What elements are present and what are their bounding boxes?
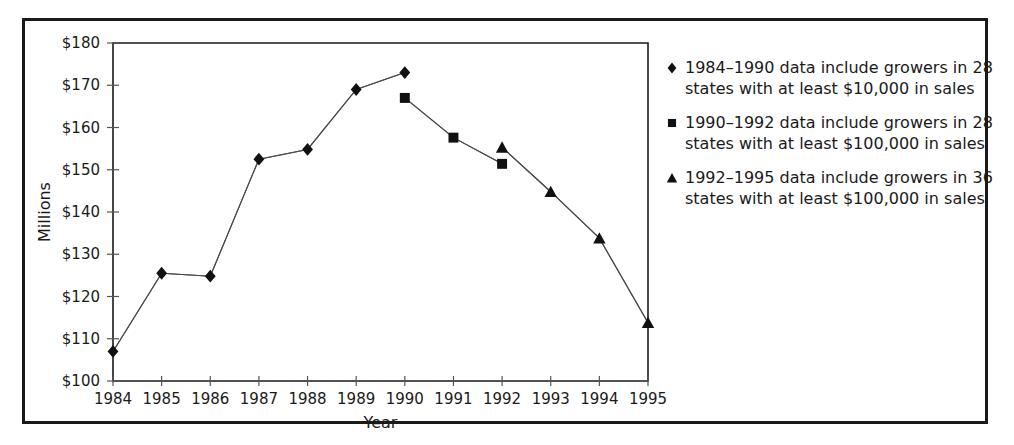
y-tick-label: $170 bbox=[62, 76, 100, 94]
y-tick-label: $120 bbox=[62, 288, 100, 306]
x-axis-title: Year bbox=[363, 413, 398, 432]
x-tick-label: 1986 bbox=[191, 390, 229, 408]
x-tick-label: 1995 bbox=[629, 390, 667, 408]
line-chart: $100$110$120$130$140$150$160$170$1801984… bbox=[0, 0, 1014, 445]
data-point-diamond-1984 bbox=[108, 345, 119, 358]
data-point-square-1992 bbox=[497, 159, 507, 169]
data-point-square-1990 bbox=[400, 93, 410, 103]
y-tick-label: $160 bbox=[62, 119, 100, 137]
legend-marker-2 bbox=[668, 119, 676, 127]
series-line-1 bbox=[113, 73, 405, 352]
legend-label-3-line2: states with at least $100,000 in sales bbox=[685, 189, 985, 208]
x-tick-label: 1993 bbox=[532, 390, 570, 408]
data-point-triangle-1992 bbox=[496, 141, 508, 152]
x-tick-label: 1988 bbox=[288, 390, 326, 408]
y-tick-label: $100 bbox=[62, 372, 100, 390]
y-tick-label: $140 bbox=[62, 203, 100, 221]
plot-box bbox=[113, 43, 648, 381]
legend-label-2-line2: states with at least $100,000 in sales bbox=[685, 134, 985, 153]
chart-figure: $100$110$120$130$140$150$160$170$1801984… bbox=[0, 0, 1014, 445]
legend-label-1-line1: 1984–1990 data include growers in 28 bbox=[685, 58, 993, 77]
legend-label-2-line1: 1990–1992 data include growers in 28 bbox=[685, 113, 993, 132]
data-point-diamond-1987 bbox=[254, 153, 265, 166]
series-line-2 bbox=[405, 98, 502, 164]
x-tick-label: 1994 bbox=[580, 390, 618, 408]
x-tick-label: 1987 bbox=[240, 390, 278, 408]
data-point-diamond-1985 bbox=[156, 267, 167, 280]
x-tick-label: 1984 bbox=[94, 390, 132, 408]
legend-label-1-line2: states with at least $10,000 in sales bbox=[685, 79, 975, 98]
x-tick-label: 1989 bbox=[337, 390, 375, 408]
y-tick-label: $130 bbox=[62, 245, 100, 263]
x-tick-label: 1991 bbox=[434, 390, 472, 408]
x-tick-label: 1992 bbox=[483, 390, 521, 408]
legend-label-3-line1: 1992–1995 data include growers in 36 bbox=[685, 168, 993, 187]
legend-marker-3 bbox=[667, 173, 677, 182]
series-line-3 bbox=[502, 147, 648, 322]
y-tick-label: $110 bbox=[62, 330, 100, 348]
legend-marker-1 bbox=[668, 63, 677, 74]
data-point-diamond-1990 bbox=[399, 66, 410, 79]
y-tick-label: $180 bbox=[62, 34, 100, 52]
x-tick-label: 1985 bbox=[143, 390, 181, 408]
data-point-triangle-1995 bbox=[642, 317, 654, 328]
data-point-diamond-1986 bbox=[205, 270, 216, 283]
data-point-square-1991 bbox=[448, 133, 458, 143]
x-tick-label: 1990 bbox=[386, 390, 424, 408]
y-tick-label: $150 bbox=[62, 161, 100, 179]
y-axis-title: Millions bbox=[35, 182, 54, 242]
